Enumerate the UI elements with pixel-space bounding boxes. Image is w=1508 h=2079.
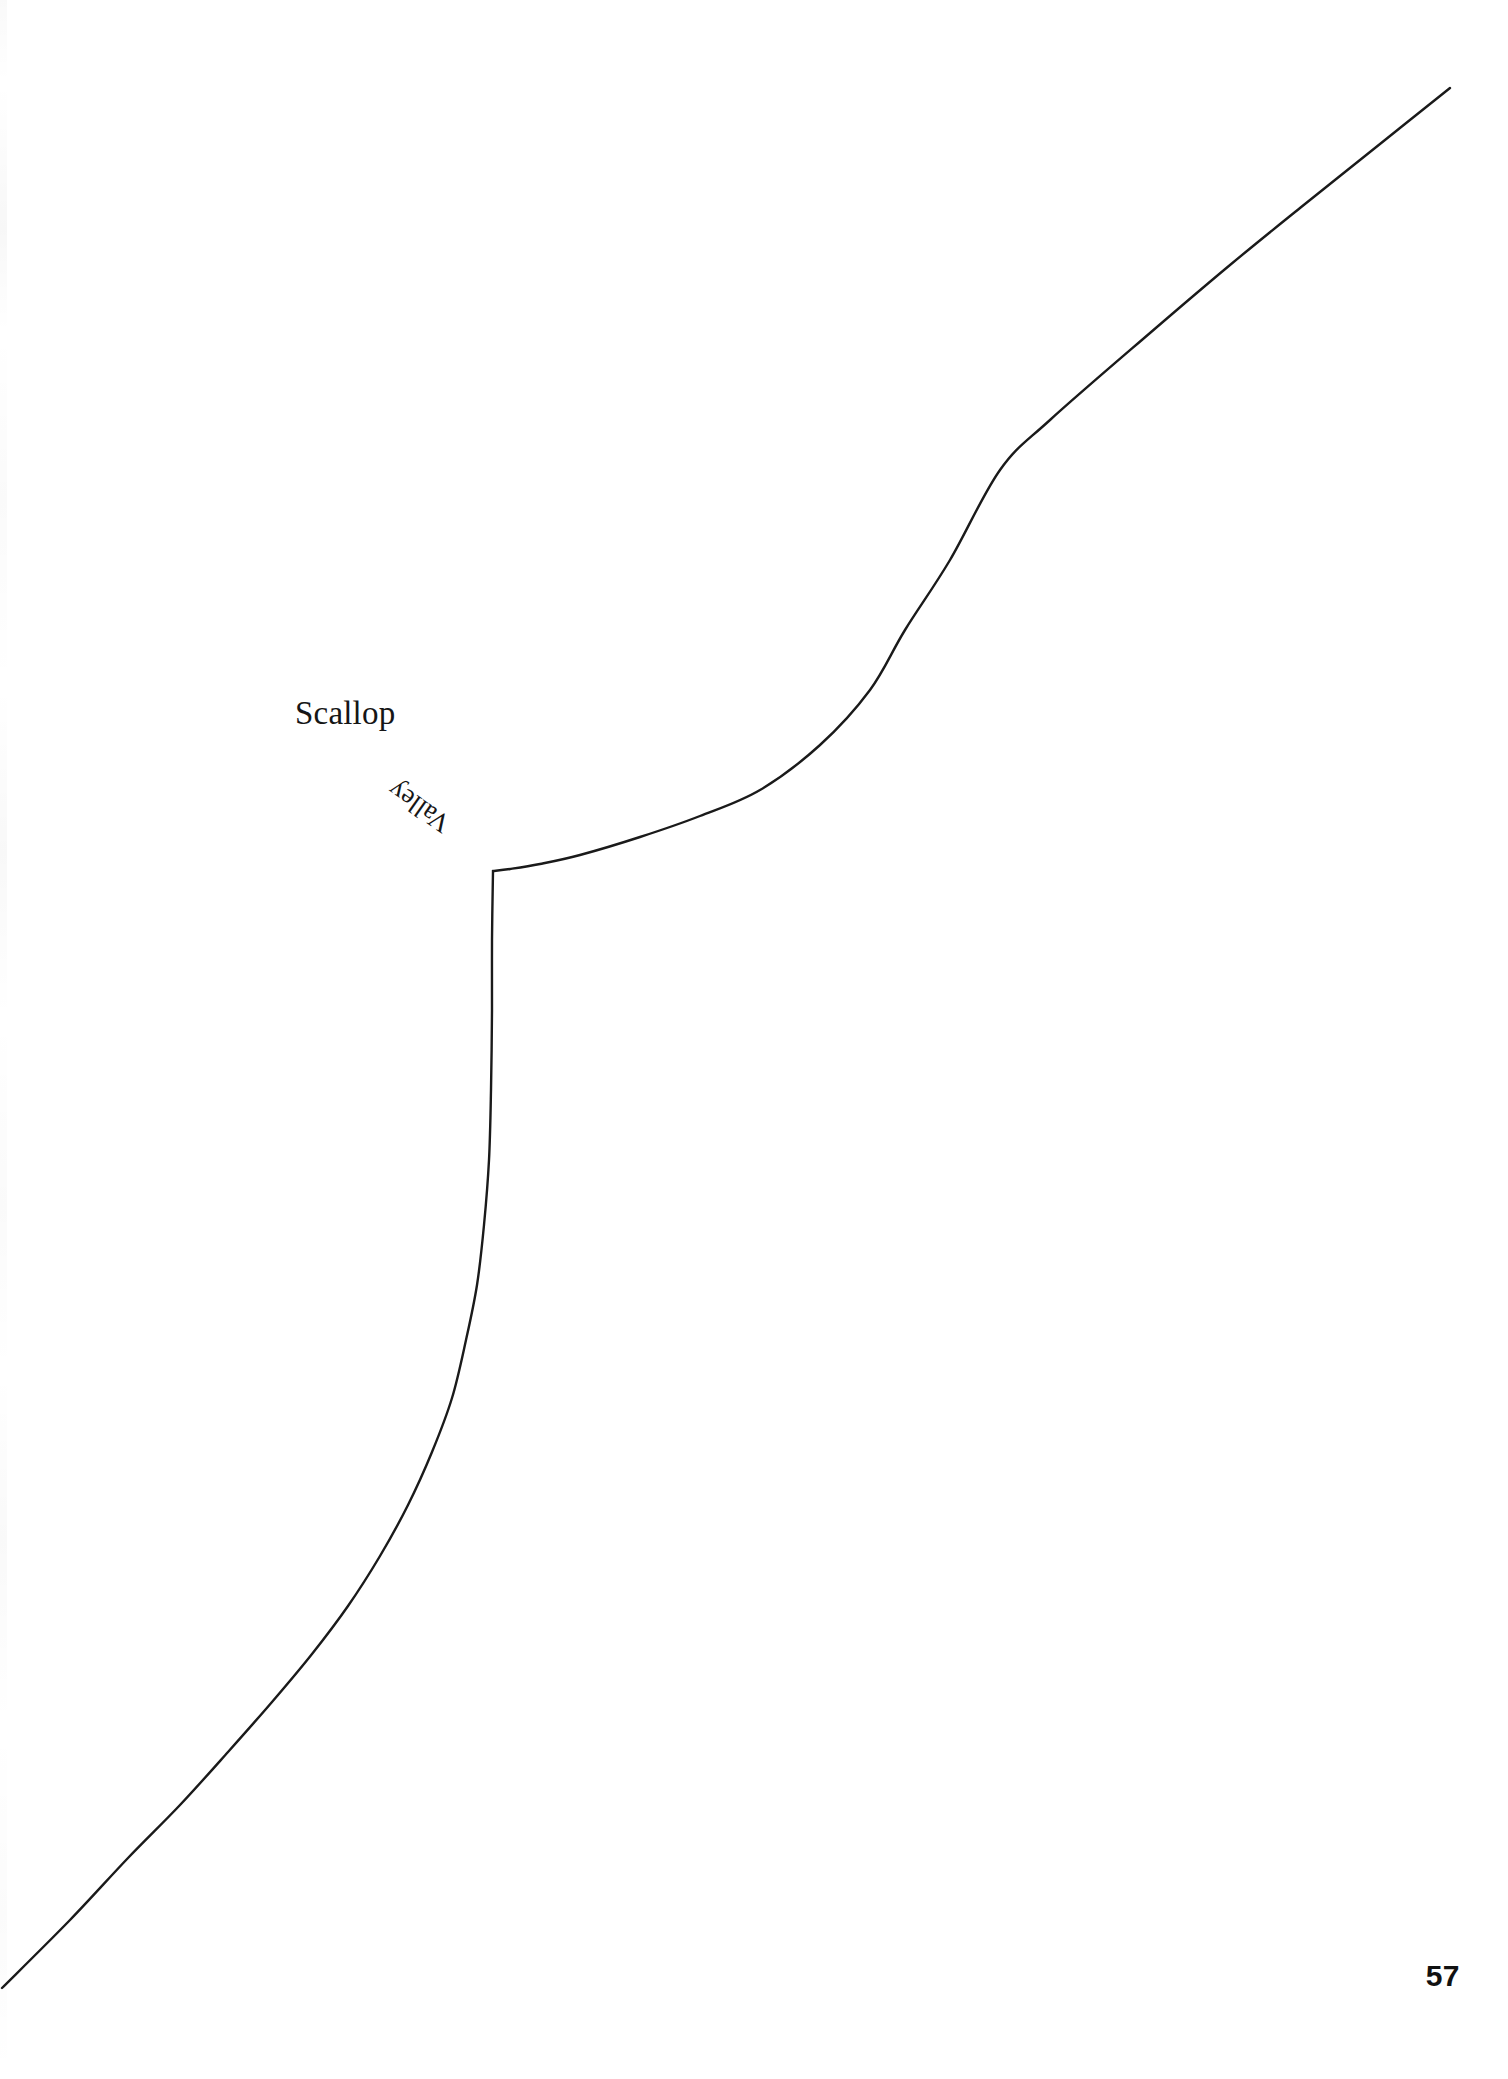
profile-curve-path (2, 88, 1450, 1988)
document-page: Scallop Valley 57 (0, 0, 1508, 2079)
page-number: 57 (1426, 1959, 1460, 1993)
scallop-label: Scallop (295, 697, 395, 730)
profile-curve-figure (0, 0, 1508, 2079)
